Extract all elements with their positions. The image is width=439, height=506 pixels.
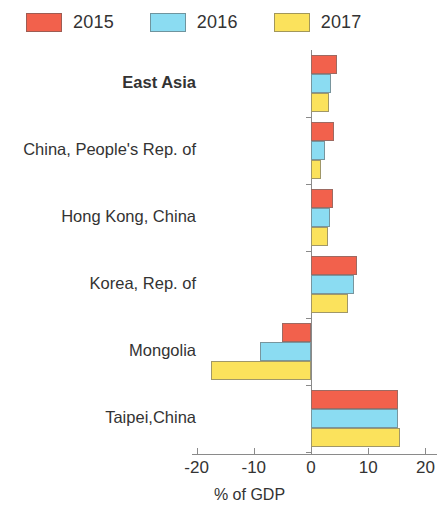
x-axis-line [192, 454, 437, 455]
bar-2015-Korea, Rep. of [311, 256, 357, 275]
x-axis-tick-label: -20 [172, 458, 222, 478]
bar-2017-East Asia [311, 93, 329, 112]
bar-2016-Hong Kong, China [311, 208, 330, 227]
legend-entry-2016: 2016 [150, 12, 238, 33]
x-axis-tick [254, 448, 255, 455]
bar-2015-East Asia [311, 55, 337, 74]
bar-2017-China, People's Rep. of [311, 160, 321, 179]
bar-2016-Mongolia [260, 342, 311, 361]
x-axis-title: % of GDP [0, 486, 439, 504]
legend-label-2015: 2015 [73, 12, 114, 33]
bar-2017-Korea, Rep. of [311, 294, 348, 313]
bar-2015-Taipei,China [311, 390, 398, 409]
bar-2015-Mongolia [282, 323, 311, 342]
legend-swatch-2016 [150, 13, 186, 32]
y-axis-tick [306, 184, 311, 185]
bar-2016-Korea, Rep. of [311, 275, 354, 294]
x-axis-tick [425, 448, 426, 455]
y-axis-tick [306, 385, 311, 386]
x-axis-tick-label: -10 [229, 458, 279, 478]
legend-label-2017: 2017 [321, 12, 362, 33]
bar-2016-China, People's Rep. of [311, 141, 325, 160]
chart-legend: 2015 2016 2017 [0, 0, 439, 44]
x-axis-tick-label: 0 [286, 458, 336, 478]
legend-label-2016: 2016 [197, 12, 238, 33]
bar-2017-Mongolia [211, 361, 311, 380]
legend-swatch-2017 [274, 13, 310, 32]
bar-2015-China, People's Rep. of [311, 122, 334, 141]
y-axis-tick [306, 318, 311, 319]
bar-2017-Taipei,China [311, 428, 400, 447]
y-axis-tick [306, 251, 311, 252]
bar-2015-Hong Kong, China [311, 189, 333, 208]
bar-2016-East Asia [311, 74, 331, 93]
legend-entry-2015: 2015 [26, 12, 114, 33]
x-axis-tick-label: 10 [343, 458, 393, 478]
plot-canvas: % of GDP -20-1001020 [0, 44, 439, 506]
legend-entry-2017: 2017 [274, 12, 362, 33]
legend-swatch-2015 [26, 13, 62, 32]
x-axis-tick-label: 20 [400, 458, 439, 478]
x-axis-tick [368, 448, 369, 455]
x-axis-tick [311, 448, 312, 455]
bar-2016-Taipei,China [311, 409, 398, 428]
y-axis-tick [306, 117, 311, 118]
bar-chart: East AsiaChina, People's Rep. ofHong Kon… [0, 44, 439, 506]
x-axis-tick [197, 448, 198, 455]
bar-2017-Hong Kong, China [311, 227, 328, 246]
